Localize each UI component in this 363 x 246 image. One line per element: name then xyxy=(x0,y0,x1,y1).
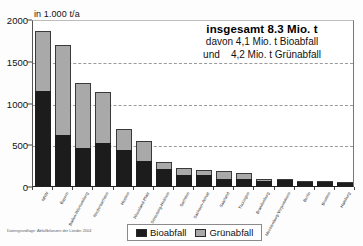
x-axis-tick-mark xyxy=(233,187,234,190)
bar-segment-bioabfall xyxy=(216,179,232,186)
x-axis-tick-mark xyxy=(173,187,174,190)
bar-segment-gruenabfall xyxy=(156,162,172,169)
bar-Hamburg[interactable] xyxy=(337,182,353,186)
x-axis-tick-mark xyxy=(294,187,295,190)
bar-Schleswig-Holstein[interactable] xyxy=(156,162,172,186)
bar-Sachsen-Anhalt[interactable] xyxy=(196,170,212,186)
legend-label: Grünabfall xyxy=(209,227,253,238)
y-axis-unit-label: in 1.000 t/a xyxy=(34,9,80,19)
x-axis-tick-mark xyxy=(213,187,214,190)
bar-segment-gruenabfall xyxy=(95,92,111,143)
bar-segment-bioabfall xyxy=(35,91,51,186)
annotation-box: insgesamt 8.3 Mio. t davon 4,1 Mio. t Bi… xyxy=(176,23,348,61)
y-axis-tick-label: 1000 xyxy=(2,98,28,109)
y-axis-tick-mark xyxy=(27,61,32,62)
bar-Berlin[interactable] xyxy=(297,181,313,186)
bar-segment-gruenabfall xyxy=(35,31,51,91)
x-axis-category-label: Bremen xyxy=(320,191,331,206)
bar-segment-bioabfall xyxy=(317,182,333,186)
x-axis-category-label: Berlin xyxy=(302,191,311,203)
legend-entry-Bioabfall[interactable]: Bioabfall xyxy=(136,227,186,238)
y-axis-tick-label: 2000 xyxy=(2,15,28,26)
x-axis-category-label: Hessen xyxy=(119,191,130,206)
bar-segment-bioabfall xyxy=(116,150,132,186)
bar-segment-bioabfall xyxy=(75,148,91,186)
bar-Niedersachsen[interactable] xyxy=(95,92,111,186)
bar-segment-bioabfall xyxy=(236,179,252,187)
x-axis-tick-mark xyxy=(274,187,275,190)
x-axis-tick-mark xyxy=(72,187,73,190)
x-axis-tick-mark xyxy=(334,187,335,190)
y-axis-tick-label: 1500 xyxy=(2,56,28,67)
x-axis-category-label: Brandenburg xyxy=(255,191,271,215)
x-axis-tick-mark xyxy=(133,187,134,190)
x-axis-category-label: Sachsen xyxy=(178,191,190,208)
x-axis-tick-mark xyxy=(52,187,53,190)
bar-segment-gruenabfall xyxy=(136,141,152,161)
bar-segment-bioabfall xyxy=(256,181,272,186)
y-axis-tick-mark xyxy=(27,145,32,146)
bar-segment-gruenabfall xyxy=(176,168,192,175)
bar-Sachsen[interactable] xyxy=(176,168,192,186)
legend-swatch xyxy=(195,229,206,237)
bar-Bayern[interactable] xyxy=(55,45,71,186)
x-axis-category-label: Sachsen-Anhalt xyxy=(192,191,210,219)
bar-segment-gruenabfall xyxy=(75,83,91,148)
x-axis-category-label: Hamburg xyxy=(339,191,351,208)
bar-segment-bioabfall xyxy=(196,175,212,186)
bar-Rheinland-Pfalz[interactable] xyxy=(136,141,152,187)
x-axis-tick-mark xyxy=(113,187,114,190)
bar-segment-bioabfall xyxy=(277,180,293,186)
x-axis-category-label: NRW xyxy=(40,191,49,202)
x-axis-tick-mark xyxy=(193,187,194,190)
bar-segment-gruenabfall xyxy=(116,129,132,149)
bar-Bremen[interactable] xyxy=(317,181,333,186)
bar-Hessen[interactable] xyxy=(116,129,132,186)
x-axis-category-label: Bayern xyxy=(59,191,70,205)
annotation-line-gruenabfall: und 4,2 Mio. t Grünabfall xyxy=(176,49,348,62)
x-axis-tick-mark xyxy=(32,187,33,190)
bar-segment-bioabfall xyxy=(337,183,353,186)
y-axis-tick-mark xyxy=(27,20,32,21)
y-axis-tick-mark xyxy=(27,103,32,104)
bar-Brandenburg[interactable] xyxy=(256,179,272,187)
x-axis-category-label: Baden-Württemberg xyxy=(68,191,90,226)
y-axis-tick-label: 500 xyxy=(2,140,28,151)
y-axis-tick-label: 0 xyxy=(2,182,28,193)
x-axis-tick-mark xyxy=(354,187,355,190)
x-axis-category-label: Schleswig-Holstein xyxy=(149,191,170,225)
x-axis-category-label: Thüringen xyxy=(237,191,250,210)
x-axis-tick-mark xyxy=(153,187,154,190)
x-axis-tick-mark xyxy=(314,187,315,190)
annotation-line-bioabfall: davon 4,1 Mio. t Bioabfall xyxy=(176,36,348,49)
bar-Thüringen[interactable] xyxy=(236,173,252,186)
bar-NRW[interactable] xyxy=(35,31,51,186)
x-axis-tick-mark xyxy=(92,187,93,190)
bar-segment-bioabfall xyxy=(136,161,152,186)
x-axis-category-label: Niedersachsen xyxy=(92,191,109,218)
x-axis-category-label: Saarland xyxy=(218,191,230,208)
bar-segment-gruenabfall xyxy=(216,171,232,179)
bar-segment-bioabfall xyxy=(156,169,172,186)
bar-Mecklenburg-Vorpommern[interactable] xyxy=(277,179,293,186)
annotation-headline: insgesamt 8.3 Mio. t xyxy=(176,23,348,35)
chart-figure: in 1.000 t/a 0500100015002000 NRWBayernB… xyxy=(0,0,363,246)
x-axis-tick-mark xyxy=(253,187,254,190)
bar-segment-bioabfall xyxy=(95,143,111,186)
bar-segment-bioabfall xyxy=(176,175,192,186)
legend-label: Bioabfall xyxy=(150,227,186,238)
bar-Saarland[interactable] xyxy=(216,171,232,186)
source-note: Datengrundlage: Abfallbilanzen der Lände… xyxy=(7,228,91,233)
bar-Baden-Württemberg[interactable] xyxy=(75,83,91,186)
legend-entry-Grünabfall[interactable]: Grünabfall xyxy=(195,227,253,238)
bar-segment-bioabfall xyxy=(55,135,71,186)
bar-segment-gruenabfall xyxy=(55,45,71,135)
chart-legend: BioabfallGrünabfall xyxy=(127,224,262,241)
x-axis-category-label: Rheinland-Pfalz xyxy=(132,191,150,219)
bar-segment-bioabfall xyxy=(297,182,313,186)
legend-swatch xyxy=(136,229,147,237)
